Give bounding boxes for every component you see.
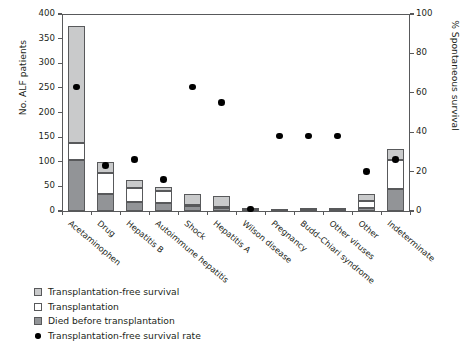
y-axis-right-tick-label: 100 bbox=[416, 9, 450, 18]
bar-segment-transplantation-free-survival bbox=[271, 209, 288, 211]
bar-segment-transplantation bbox=[184, 205, 201, 207]
survival-rate-point bbox=[160, 176, 167, 183]
y-axis-left-tick-label: 350 bbox=[21, 34, 55, 43]
bar-segment-transplantation bbox=[213, 207, 230, 209]
y-axis-left-tick-label: 50 bbox=[21, 181, 55, 190]
y-axis-right-tick bbox=[410, 13, 414, 14]
bar-segment-died-before-transplantation bbox=[97, 194, 114, 211]
legend-item-died-before-transplantation: Died before transplantation bbox=[34, 314, 201, 329]
survival-rate-point bbox=[363, 168, 370, 175]
bar-stack bbox=[126, 14, 143, 211]
x-axis-label: Other bbox=[356, 218, 380, 241]
bar-stack bbox=[184, 14, 201, 211]
bar-segment-transplantation-free-survival bbox=[329, 208, 346, 210]
x-axis-label: Acetaminophen bbox=[66, 218, 122, 268]
x-axis-label: Drug bbox=[95, 218, 117, 239]
y-axis-right-tick bbox=[410, 171, 414, 172]
legend-item-transplantation: Transplantation bbox=[34, 300, 201, 315]
bar-segment-transplantation bbox=[68, 143, 85, 160]
legend-swatch-dark-gray-square bbox=[34, 317, 42, 325]
bar-segment-transplantation bbox=[97, 173, 114, 195]
bar-segment-transplantation-free-survival bbox=[358, 194, 375, 201]
y-axis-left-tick-label: 100 bbox=[21, 157, 55, 166]
bar-segment-died-before-transplantation bbox=[329, 210, 346, 212]
bar-stack bbox=[97, 14, 114, 211]
legend-label: Died before transplantation bbox=[48, 316, 175, 326]
bar-segment-transplantation-free-survival bbox=[300, 208, 317, 210]
y-axis-right-title: % Spontaneous survival bbox=[450, 11, 461, 141]
y-axis-left-tick-label: 150 bbox=[21, 132, 55, 141]
legend-label: Transplantation-free survival bbox=[48, 287, 179, 297]
y-axis-left-tick-label: 400 bbox=[21, 9, 55, 18]
bar-stack bbox=[242, 14, 259, 211]
y-axis-left-tick-label: 300 bbox=[21, 58, 55, 67]
legend-label: Transplantation bbox=[48, 302, 119, 312]
bar-series-group bbox=[62, 14, 410, 211]
bar-segment-transplantation-free-survival bbox=[155, 187, 172, 191]
bar-segment-died-before-transplantation bbox=[155, 203, 172, 211]
bar-stack bbox=[213, 14, 230, 211]
bar-segment-transplantation-free-survival bbox=[184, 194, 201, 205]
bar-segment-transplantation-free-survival bbox=[213, 196, 230, 207]
chart-legend: Transplantation-free survival Transplant… bbox=[34, 285, 201, 343]
bar-segment-died-before-transplantation bbox=[300, 210, 317, 212]
bar-segment-transplantation bbox=[126, 188, 143, 201]
x-axis-labels: AcetaminophenDrugHepatitis BAutoimmune h… bbox=[0, 213, 474, 283]
survival-rate-point bbox=[247, 206, 254, 213]
y-axis-left-tick-label: 200 bbox=[21, 108, 55, 117]
y-axis-right-tick bbox=[410, 53, 414, 54]
bar-segment-transplantation bbox=[387, 160, 404, 189]
legend-swatch-black-dot bbox=[34, 332, 42, 340]
bar-stack bbox=[387, 14, 404, 211]
x-axis-label: Indeterminate bbox=[385, 218, 436, 263]
y-axis-left-tick-label: 250 bbox=[21, 83, 55, 92]
bar-segment-transplantation-free-survival bbox=[126, 180, 143, 188]
survival-rate-point bbox=[131, 156, 138, 163]
legend-swatch-light-gray-square bbox=[34, 288, 42, 296]
bar-stack bbox=[271, 14, 288, 211]
y-axis-right-tick-label: 60 bbox=[416, 88, 450, 97]
y-axis-right-tick bbox=[410, 92, 414, 93]
bar-stack bbox=[68, 14, 85, 211]
survival-rate-point bbox=[392, 156, 399, 163]
y-axis-right-tick-label: 40 bbox=[416, 127, 450, 136]
survival-rate-point bbox=[189, 84, 196, 91]
bar-segment-transplantation bbox=[155, 191, 172, 202]
bar-stack bbox=[329, 14, 346, 211]
y-axis-right-tick-label: 80 bbox=[416, 48, 450, 57]
bar-stack bbox=[358, 14, 375, 211]
legend-item-survival-rate: Transplantation-free survival rate bbox=[34, 329, 201, 344]
bar-segment-transplantation bbox=[358, 201, 375, 207]
y-axis-right-tick-label: 20 bbox=[416, 167, 450, 176]
bar-segment-died-before-transplantation bbox=[126, 202, 143, 211]
survival-rate-point bbox=[218, 99, 225, 106]
y-axis-right-tick bbox=[410, 132, 414, 133]
chart-figure: No. ALF patients % Spontaneous survival … bbox=[0, 0, 474, 352]
survival-rate-point bbox=[102, 162, 109, 169]
bar-segment-died-before-transplantation bbox=[387, 189, 404, 211]
legend-label: Transplantation-free survival rate bbox=[48, 331, 201, 341]
x-axis-label: Shock bbox=[182, 218, 208, 242]
survival-rate-point bbox=[73, 84, 80, 91]
bar-stack bbox=[300, 14, 317, 211]
bar-segment-died-before-transplantation bbox=[68, 160, 85, 211]
bar-segment-died-before-transplantation bbox=[358, 208, 375, 211]
legend-item-free-survival: Transplantation-free survival bbox=[34, 285, 201, 300]
legend-swatch-white-square bbox=[34, 303, 42, 311]
